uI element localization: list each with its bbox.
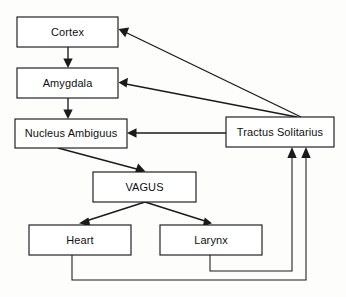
node-tractus-solitarius-label: Tractus Solitarius bbox=[237, 126, 324, 138]
node-larynx-label: Larynx bbox=[194, 234, 228, 246]
node-heart[interactable]: Heart bbox=[29, 225, 131, 255]
node-nucleus-ambiguus[interactable]: Nucleus Ambiguus bbox=[15, 119, 127, 148]
node-cortex[interactable]: Cortex bbox=[17, 17, 118, 47]
node-amygdala-label: Amygdala bbox=[43, 77, 93, 89]
edge-tractus-solitarius-to-nucleus-ambiguus bbox=[127, 128, 226, 137]
node-cortex-label: Cortex bbox=[51, 26, 84, 38]
node-tractus-solitarius[interactable]: Tractus Solitarius bbox=[226, 117, 334, 147]
node-larynx[interactable]: Larynx bbox=[160, 225, 262, 255]
node-vagus-label: VAGUS bbox=[125, 181, 163, 193]
node-amygdala[interactable]: Amygdala bbox=[17, 68, 118, 98]
edge-tractus-solitarius-to-amygdala bbox=[119, 78, 298, 117]
edge-tractus-solitarius-to-cortex bbox=[119, 28, 302, 117]
edge-cortex-to-amygdala bbox=[63, 47, 72, 68]
edge-nucleus-ambiguus-to-vagus bbox=[58, 148, 146, 173]
node-vagus[interactable]: VAGUS bbox=[93, 172, 196, 202]
flow-diagram: Cortex Amygdala Nucleus Ambiguus Tractus… bbox=[0, 0, 346, 297]
node-nucleus-ambiguus-label: Nucleus Ambiguus bbox=[25, 127, 118, 139]
edge-vagus-to-heart bbox=[79, 202, 145, 227]
edge-amygdala-to-nucleus-ambiguus bbox=[63, 98, 72, 119]
node-heart-label: Heart bbox=[66, 234, 93, 246]
flow-diagram-canvas: Cortex Amygdala Nucleus Ambiguus Tractus… bbox=[0, 0, 346, 297]
edge-vagus-to-larynx bbox=[145, 202, 212, 227]
